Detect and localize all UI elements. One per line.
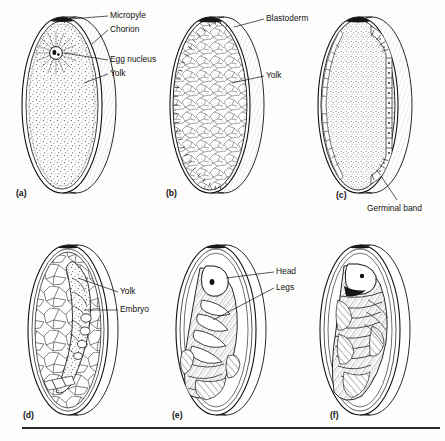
panel-letter-d: (d) [23,410,34,420]
label-legs: Legs [276,282,294,292]
label-yolk-d: Yolk [120,286,136,296]
label-yolk-b: Yolk [266,70,282,80]
panel-letter-a: (a) [16,188,27,198]
label-head: Head [276,266,296,276]
head-e [202,266,229,297]
panel-f: (f) [320,243,410,421]
label-blastoderm: Blastoderm [266,13,308,23]
yolk-region-a [26,21,98,189]
label-germinal-band: Germinal band [367,203,422,213]
label-chorion: Chorion [110,24,140,34]
eye-spot-f [360,274,364,278]
panel-letter-c: (c) [336,190,347,200]
panel-letter-e: (e) [172,410,183,420]
panel-letter-f: (f) [330,410,339,420]
label-egg-nucleus: Egg nucleus [110,54,156,64]
panel-letter-b: (b) [166,188,177,198]
yolk-region-b [173,20,247,190]
egg-development-figure: Micropyle Chorion Egg nucleus Yolk (a) [0,0,445,441]
label-embryo: Embryo [120,304,149,314]
eye-spot-e [210,279,215,285]
label-micropyle: Micropyle [110,10,146,20]
label-yolk-a: Yolk [110,68,126,78]
